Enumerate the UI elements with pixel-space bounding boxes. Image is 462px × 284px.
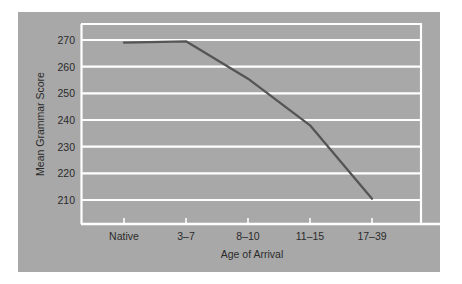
xtick-label-8-10: 8–10 xyxy=(236,230,260,242)
x-axis-title: Age of Arrival xyxy=(221,248,283,260)
figure-canvas: 270 260 250 240 230 220 210 Native 3–7 8… xyxy=(0,0,462,284)
plot-frame xyxy=(81,24,440,224)
ytick-label-230: 230 xyxy=(57,141,75,153)
xtick-label-native: Native xyxy=(109,230,139,242)
gridlines-y xyxy=(81,40,422,200)
xtick-label-17-39: 17–39 xyxy=(357,230,386,242)
ytick-label-250: 250 xyxy=(57,87,75,99)
xtick-label-11-15: 11–15 xyxy=(296,230,325,242)
ytick-label-270: 270 xyxy=(57,34,75,46)
ytick-label-260: 260 xyxy=(57,61,75,73)
ytick-label-220: 220 xyxy=(57,167,75,179)
xtick-labels: Native 3–7 8–10 11–15 17–39 xyxy=(109,230,387,242)
line-chart: 270 260 250 240 230 220 210 Native 3–7 8… xyxy=(0,0,462,284)
xtick-label-3-7: 3–7 xyxy=(177,230,195,242)
ytick-label-240: 240 xyxy=(57,114,75,126)
ytick-label-210: 210 xyxy=(57,194,75,206)
y-axis-title: Mean Grammar Score xyxy=(34,72,46,176)
ytick-labels: 270 260 250 240 230 220 210 xyxy=(57,34,75,206)
